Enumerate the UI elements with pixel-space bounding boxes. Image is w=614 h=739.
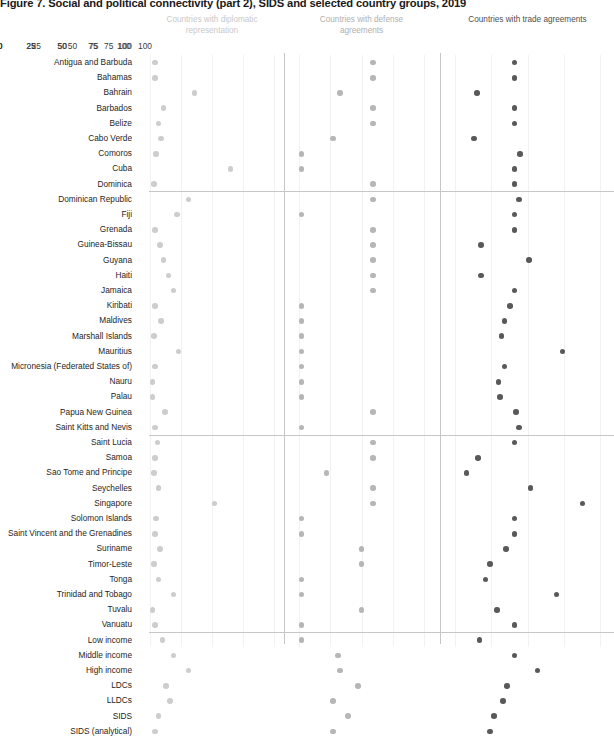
data-point[interactable]	[370, 501, 376, 507]
data-point[interactable]	[370, 197, 376, 203]
data-point[interactable]	[167, 698, 173, 704]
data-point[interactable]	[483, 577, 489, 583]
data-point[interactable]	[160, 637, 166, 643]
data-point[interactable]	[491, 713, 497, 719]
data-point[interactable]	[299, 349, 305, 355]
data-point[interactable]	[299, 166, 305, 172]
data-point[interactable]	[150, 394, 156, 400]
data-point[interactable]	[174, 212, 180, 218]
data-point[interactable]	[299, 318, 305, 324]
data-point[interactable]	[150, 379, 156, 385]
data-point[interactable]	[471, 136, 477, 142]
data-point[interactable]	[528, 485, 534, 491]
data-point[interactable]	[512, 105, 518, 111]
data-point[interactable]	[324, 470, 330, 476]
data-point[interactable]	[359, 546, 365, 552]
data-point[interactable]	[478, 242, 484, 248]
data-point[interactable]	[156, 121, 162, 127]
data-point[interactable]	[516, 425, 522, 431]
data-point[interactable]	[158, 318, 164, 324]
data-point[interactable]	[512, 75, 518, 81]
data-point[interactable]	[512, 121, 518, 127]
data-point[interactable]	[171, 653, 177, 659]
data-point[interactable]	[153, 516, 159, 522]
data-point[interactable]	[370, 75, 376, 81]
data-point[interactable]	[517, 151, 523, 157]
data-point[interactable]	[355, 683, 361, 689]
data-point[interactable]	[228, 166, 234, 172]
data-point[interactable]	[152, 303, 158, 309]
data-point[interactable]	[370, 181, 376, 187]
data-point[interactable]	[299, 379, 305, 385]
data-point[interactable]	[370, 455, 376, 461]
data-point[interactable]	[554, 592, 560, 598]
data-point[interactable]	[359, 607, 365, 613]
data-point[interactable]	[516, 197, 522, 203]
data-point[interactable]	[166, 273, 172, 279]
data-point[interactable]	[162, 409, 168, 415]
data-point[interactable]	[560, 349, 566, 355]
data-point[interactable]	[370, 485, 376, 491]
data-point[interactable]	[299, 333, 305, 339]
data-point[interactable]	[152, 531, 158, 537]
data-point[interactable]	[478, 273, 484, 279]
data-point[interactable]	[535, 668, 541, 674]
data-point[interactable]	[370, 273, 376, 279]
data-point[interactable]	[161, 257, 167, 263]
data-point[interactable]	[580, 501, 586, 507]
data-point[interactable]	[504, 683, 510, 689]
data-point[interactable]	[370, 409, 376, 415]
data-point[interactable]	[151, 181, 157, 187]
data-point[interactable]	[299, 394, 305, 400]
data-point[interactable]	[151, 561, 157, 567]
data-point[interactable]	[192, 90, 198, 96]
data-point[interactable]	[156, 577, 162, 583]
data-point[interactable]	[512, 227, 518, 233]
data-point[interactable]	[513, 409, 519, 415]
data-point[interactable]	[497, 394, 503, 400]
data-point[interactable]	[487, 561, 493, 567]
data-point[interactable]	[299, 212, 305, 218]
data-point[interactable]	[330, 698, 336, 704]
data-point[interactable]	[496, 379, 502, 385]
data-point[interactable]	[330, 136, 336, 142]
data-point[interactable]	[370, 288, 376, 294]
data-point[interactable]	[176, 349, 182, 355]
data-point[interactable]	[171, 288, 177, 294]
data-point[interactable]	[337, 668, 343, 674]
data-point[interactable]	[157, 546, 163, 552]
data-point[interactable]	[152, 729, 158, 735]
data-point[interactable]	[299, 516, 305, 522]
data-point[interactable]	[155, 440, 161, 446]
data-point[interactable]	[152, 60, 158, 66]
data-point[interactable]	[370, 242, 376, 248]
data-point[interactable]	[502, 318, 508, 324]
data-point[interactable]	[186, 668, 192, 674]
data-point[interactable]	[370, 105, 376, 111]
data-point[interactable]	[512, 516, 518, 522]
data-point[interactable]	[370, 257, 376, 263]
data-point[interactable]	[151, 333, 157, 339]
data-point[interactable]	[487, 729, 493, 735]
data-point[interactable]	[512, 622, 518, 628]
data-point[interactable]	[171, 592, 177, 598]
data-point[interactable]	[512, 181, 518, 187]
data-point[interactable]	[299, 592, 305, 598]
data-point[interactable]	[370, 121, 376, 127]
data-point[interactable]	[512, 440, 518, 446]
data-point[interactable]	[494, 607, 500, 613]
data-point[interactable]	[212, 501, 218, 507]
data-point[interactable]	[152, 455, 158, 461]
data-point[interactable]	[526, 257, 532, 263]
data-point[interactable]	[163, 683, 169, 689]
data-point[interactable]	[359, 561, 365, 567]
data-point[interactable]	[299, 364, 305, 370]
data-point[interactable]	[330, 729, 336, 735]
data-point[interactable]	[502, 364, 508, 370]
data-point[interactable]	[151, 470, 157, 476]
data-point[interactable]	[370, 440, 376, 446]
data-point[interactable]	[335, 653, 341, 659]
data-point[interactable]	[512, 288, 518, 294]
data-point[interactable]	[503, 546, 509, 552]
data-point[interactable]	[299, 637, 305, 643]
